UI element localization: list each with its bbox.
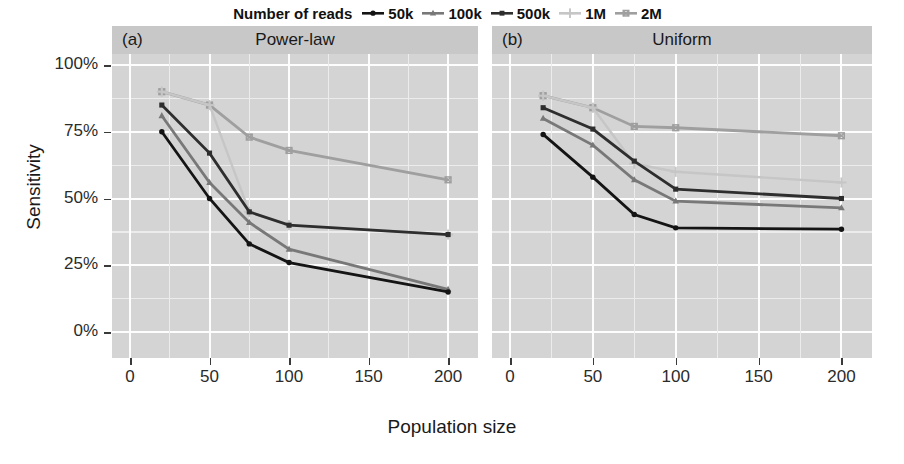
x-tick-label: 100	[651, 367, 701, 387]
y-tick-mark	[104, 332, 111, 334]
square-marker	[839, 196, 844, 201]
x-tick-mark	[289, 358, 291, 365]
legend-title: Number of reads	[233, 5, 352, 22]
x-tick-label: 150	[344, 367, 394, 387]
circle-marker	[673, 225, 678, 230]
triangle-marker	[158, 112, 165, 118]
y-tick-mark	[104, 265, 111, 267]
circle-marker	[247, 241, 252, 246]
y-tick-label: 0%	[28, 321, 98, 341]
x-axis-title: Population size	[0, 416, 904, 438]
crossed-square-marker	[615, 6, 637, 20]
x-tick-mark	[448, 358, 450, 365]
panel-power-law: (a)Power-law050100150200	[112, 26, 478, 358]
square-marker	[159, 102, 164, 107]
circle-marker	[286, 260, 291, 265]
triangle-marker	[540, 115, 547, 121]
x-tick-label: 200	[816, 367, 866, 387]
series-line	[162, 92, 448, 235]
legend-label-500k: 500k	[517, 5, 550, 22]
circle-marker	[590, 174, 595, 179]
square-marker	[541, 105, 546, 110]
circle-marker	[207, 196, 212, 201]
circle-marker	[371, 11, 376, 16]
y-tick-mark	[104, 199, 111, 201]
x-tick-label: 0	[105, 367, 155, 387]
panel-uniform: (b)Uniform050100150200	[492, 26, 872, 358]
x-tick-mark	[676, 358, 678, 365]
x-tick-mark	[369, 358, 371, 365]
x-tick-label: 100	[264, 367, 314, 387]
x-tick-mark	[130, 358, 132, 365]
circle-marker	[839, 226, 844, 231]
series-layer	[492, 26, 872, 358]
series-line	[162, 105, 448, 234]
x-tick-mark	[510, 358, 512, 365]
legend-label-50k: 50k	[388, 5, 413, 22]
plus-marker	[565, 8, 575, 18]
legend-label-100k: 100k	[448, 5, 481, 22]
series-line	[162, 116, 448, 290]
x-tick-mark	[210, 358, 212, 365]
chart-legend: Number of reads 50k 100k 500k 1M 2M	[0, 0, 904, 26]
x-tick-label: 50	[568, 367, 618, 387]
series-line	[543, 118, 841, 207]
series-1M[interactable]	[157, 87, 453, 240]
legend-label-1m: 1M	[585, 5, 606, 22]
square-marker	[446, 232, 451, 237]
x-tick-mark	[759, 358, 761, 365]
series-layer	[112, 26, 478, 358]
circle-marker	[362, 6, 384, 20]
y-tick-label: 100%	[28, 54, 98, 74]
plus-marker	[671, 167, 681, 177]
legend-entry-100k[interactable]: 100k	[422, 5, 481, 22]
square-marker	[632, 159, 637, 164]
x-tick-mark	[841, 358, 843, 365]
y-tick-label: 50%	[28, 188, 98, 208]
x-tick-label: 150	[734, 367, 784, 387]
series-line	[543, 96, 841, 136]
y-tick-label: 25%	[28, 254, 98, 274]
square-marker	[286, 223, 291, 228]
legend-entry-2m[interactable]: 2M	[615, 5, 662, 22]
square-marker	[247, 209, 252, 214]
y-tick-mark	[104, 65, 111, 67]
series-line	[162, 132, 448, 292]
circle-marker	[632, 212, 637, 217]
series-line	[543, 134, 841, 229]
square-marker	[491, 6, 513, 20]
x-tick-label: 0	[485, 367, 535, 387]
circle-marker	[159, 129, 164, 134]
plus-marker	[836, 177, 846, 187]
x-tick-label: 200	[423, 367, 473, 387]
square-marker	[590, 127, 595, 132]
triangle-marker	[422, 6, 444, 20]
chart-plot-area: Sensitivity Population size 0%25%50%75%1…	[0, 26, 904, 464]
x-tick-label: 50	[185, 367, 235, 387]
x-tick-mark	[593, 358, 595, 365]
series-50k[interactable]	[540, 132, 844, 232]
y-tick-label: 75%	[28, 121, 98, 141]
plus-marker	[559, 6, 581, 20]
series-2M[interactable]	[540, 93, 844, 139]
y-tick-mark	[104, 132, 111, 134]
legend-label-2m: 2M	[641, 5, 662, 22]
legend-entry-50k[interactable]: 50k	[362, 5, 413, 22]
square-marker	[499, 11, 504, 16]
series-500k[interactable]	[541, 105, 844, 201]
circle-marker	[540, 132, 545, 137]
series-line	[543, 108, 841, 199]
series-500k[interactable]	[159, 102, 450, 237]
square-marker	[673, 187, 678, 192]
square-marker	[207, 151, 212, 156]
circle-marker	[445, 289, 450, 294]
legend-entry-500k[interactable]: 500k	[491, 5, 550, 22]
legend-entry-1m[interactable]: 1M	[559, 5, 606, 22]
